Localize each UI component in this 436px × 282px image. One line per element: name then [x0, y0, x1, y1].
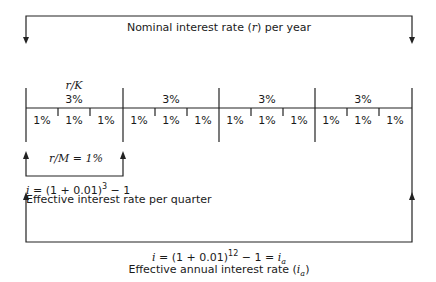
quarter-rate-4: 3%	[354, 94, 371, 106]
month-rate: 1%	[162, 115, 179, 127]
month-rate: 1%	[354, 115, 371, 127]
month-rate: 1%	[226, 115, 243, 127]
annual-bracket	[26, 200, 412, 242]
quarter-rate-2: 3%	[162, 94, 179, 106]
month-rate: 1%	[322, 115, 339, 127]
month-rate: 1%	[65, 115, 82, 127]
period-label-rk: r/K	[65, 80, 82, 92]
month-rate: 1%	[258, 115, 275, 127]
month-rate: 1%	[130, 115, 147, 127]
nominal-rate-label: Nominal interest rate (r) per year	[127, 22, 311, 34]
month-rate: 1%	[290, 115, 307, 127]
month-rate: 1%	[194, 115, 211, 127]
quarter-rate-1: 3%	[65, 94, 82, 106]
month-rate: 1%	[97, 115, 114, 127]
month-rate: 1%	[386, 115, 403, 127]
quarter-rate-3: 3%	[258, 94, 275, 106]
annual-caption: Effective annual interest rate (ia)	[129, 264, 310, 280]
diagram-lines	[0, 0, 436, 282]
month-rate: 1%	[33, 115, 50, 127]
quarter-caption: Effective interest rate per quarter	[26, 194, 212, 206]
monthly-rate-label: r/M = 1%	[49, 153, 103, 165]
